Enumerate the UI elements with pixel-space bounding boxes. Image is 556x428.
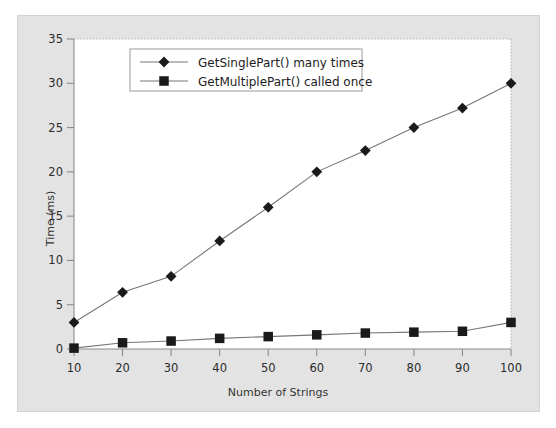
x-tick-label: 100: [500, 361, 522, 375]
x-tick-label: 20: [115, 361, 130, 375]
data-point-marker: [166, 336, 176, 346]
data-point-marker: [215, 334, 225, 344]
data-point-marker: [69, 343, 79, 353]
x-tick-label: 90: [455, 361, 470, 375]
data-point-marker: [409, 327, 419, 337]
x-tick-label: 60: [309, 361, 324, 375]
y-tick-label: 30: [48, 76, 63, 90]
x-tick-label: 30: [164, 361, 179, 375]
data-point-marker: [263, 332, 273, 342]
y-tick-label: 25: [48, 121, 63, 135]
y-tick-label: 5: [56, 298, 63, 312]
legend-label: GetSinglePart() many times: [198, 56, 364, 70]
x-tick-label: 70: [358, 361, 373, 375]
y-tick-label: 0: [56, 342, 63, 356]
data-point-marker: [361, 328, 371, 338]
x-tick-label: 50: [261, 361, 276, 375]
legend-label: GetMultiplePart() called once: [198, 75, 372, 89]
data-point-marker: [458, 327, 468, 337]
chart-figure: 05101520253035102030405060708090100GetSi…: [0, 0, 556, 428]
y-tick-label: 35: [48, 32, 63, 46]
y-axis-label-wrapper: Time (ms): [38, 176, 56, 266]
x-tick-label: 10: [67, 361, 82, 375]
x-tick-label: 40: [212, 361, 227, 375]
y-axis-label: Time (ms): [44, 179, 57, 259]
data-point-marker: [312, 330, 322, 340]
plot-area: 05101520253035102030405060708090100GetSi…: [18, 16, 539, 411]
legend-marker: [159, 76, 169, 86]
data-point-marker: [506, 318, 516, 328]
x-tick-label: 80: [407, 361, 422, 375]
chart-panel: 05101520253035102030405060708090100GetSi…: [17, 15, 540, 412]
data-point-marker: [118, 338, 128, 348]
x-axis-label: Number of Strings: [0, 386, 556, 399]
